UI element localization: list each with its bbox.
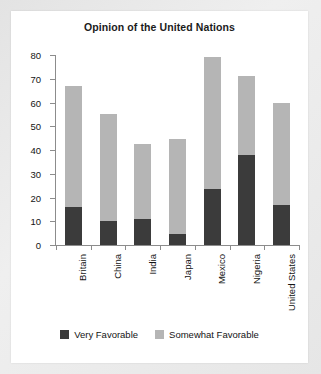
- bar-group[interactable]: [134, 144, 151, 245]
- bar-group[interactable]: [100, 114, 117, 245]
- x-axis-category-label: Nigeria: [251, 254, 262, 284]
- y-axis-tick-label: 20: [30, 192, 41, 203]
- bar-segment-very-favorable[interactable]: [65, 207, 82, 245]
- x-axis-category-label: United States: [286, 254, 297, 311]
- y-axis-tick-label: 10: [30, 216, 41, 227]
- y-axis-line: [55, 55, 56, 246]
- bar-segment-very-favorable[interactable]: [134, 219, 151, 245]
- bar-segment-somewhat-favorable[interactable]: [100, 114, 117, 221]
- y-axis-tick-label: 30: [30, 168, 41, 179]
- bar-segment-very-favorable[interactable]: [273, 205, 290, 245]
- bar-segment-very-favorable[interactable]: [100, 221, 117, 245]
- page-title: Opinion of the United Nations: [11, 21, 308, 33]
- bar-segment-somewhat-favorable[interactable]: [65, 86, 82, 207]
- plot-area: 01020304050607080 BritainChinaIndiaJapan…: [56, 55, 299, 245]
- y-axis-tick: 10: [50, 221, 55, 222]
- bar-group[interactable]: [169, 139, 186, 245]
- y-axis-tick: 30: [50, 174, 55, 175]
- bar-group[interactable]: [273, 103, 290, 246]
- y-axis-tick-label: 40: [30, 145, 41, 156]
- x-axis-category-label: Mexico: [216, 254, 227, 284]
- bar-segment-somewhat-favorable[interactable]: [204, 57, 221, 189]
- legend-swatch-icon: [60, 330, 69, 339]
- x-axis-category-label: China: [112, 254, 123, 279]
- x-axis-tick: [195, 245, 196, 250]
- x-axis-tick: [56, 245, 57, 250]
- bar-segment-very-favorable[interactable]: [169, 234, 186, 245]
- y-axis-tick-label: 50: [30, 121, 41, 132]
- legend-item[interactable]: Somewhat Favorable: [155, 329, 259, 340]
- x-axis-category-label: Britain: [77, 254, 88, 281]
- y-axis-tick: 20: [50, 198, 55, 199]
- legend-label: Somewhat Favorable: [169, 329, 259, 340]
- y-axis-tick: 50: [50, 126, 55, 127]
- bar-segment-somewhat-favorable[interactable]: [238, 76, 255, 154]
- y-axis-tick-label: 80: [30, 50, 41, 61]
- y-axis-tick-label: 70: [30, 73, 41, 84]
- x-axis-tick: [264, 245, 265, 250]
- x-axis-tick: [125, 245, 126, 250]
- chart-page: Opinion of the United Nations 0102030405…: [0, 0, 321, 374]
- y-axis-tick-label: 60: [30, 97, 41, 108]
- y-axis-tick: 40: [50, 150, 55, 151]
- bar-segment-very-favorable[interactable]: [238, 155, 255, 245]
- x-axis-tick: [230, 245, 231, 250]
- x-axis-tick: [91, 245, 92, 250]
- chart-panel: Opinion of the United Nations 0102030405…: [11, 11, 308, 363]
- x-axis-tick: [299, 245, 300, 250]
- bar-segment-very-favorable[interactable]: [204, 189, 221, 245]
- bar-group[interactable]: [65, 86, 82, 245]
- x-axis-tick: [160, 245, 161, 250]
- bar-group[interactable]: [238, 76, 255, 245]
- y-axis-tick: 0: [50, 245, 55, 246]
- bar-segment-somewhat-favorable[interactable]: [134, 144, 151, 219]
- y-axis-tick: 80: [50, 55, 55, 56]
- bar-segment-somewhat-favorable[interactable]: [169, 139, 186, 234]
- chart-legend: Very FavorableSomewhat Favorable: [11, 329, 308, 340]
- y-axis-tick: 70: [50, 79, 55, 80]
- legend-item[interactable]: Very Favorable: [60, 329, 138, 340]
- bar-segment-somewhat-favorable[interactable]: [273, 103, 290, 205]
- legend-label: Very Favorable: [74, 329, 138, 340]
- x-axis-category-label: India: [147, 254, 158, 275]
- y-axis-tick: 60: [50, 103, 55, 104]
- x-axis-category-label: Japan: [182, 254, 193, 280]
- legend-swatch-icon: [155, 330, 164, 339]
- y-axis-tick-label: 0: [36, 240, 41, 251]
- bar-group[interactable]: [204, 57, 221, 245]
